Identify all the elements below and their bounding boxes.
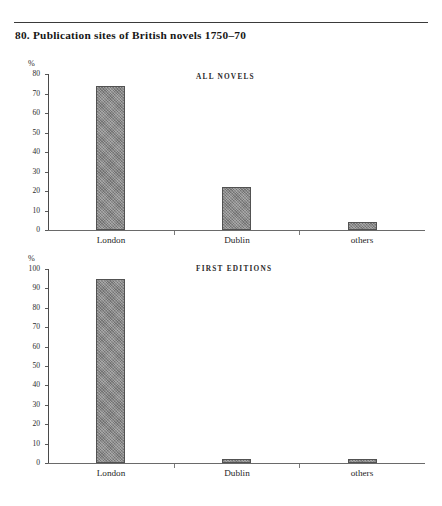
y-tick-mark bbox=[45, 347, 48, 348]
y-tick-mark bbox=[45, 113, 48, 114]
bar-others bbox=[348, 459, 377, 463]
y-tick-label: 50 bbox=[10, 129, 40, 137]
y-tick-label: 70 bbox=[10, 323, 40, 331]
y-tick-mark bbox=[45, 230, 48, 231]
y-tick-label: 20 bbox=[10, 187, 40, 195]
y-tick-label: 0 bbox=[10, 459, 40, 467]
y-tick-mark bbox=[45, 405, 48, 406]
y-tick-mark bbox=[45, 172, 48, 173]
y-tick-mark bbox=[45, 152, 48, 153]
y-tick-mark bbox=[45, 269, 48, 270]
y-tick-mark bbox=[45, 74, 48, 75]
y-tick-label: 10 bbox=[10, 440, 40, 448]
category-label-others: others bbox=[317, 235, 407, 245]
y-tick-mark bbox=[45, 288, 48, 289]
y-tick-mark bbox=[45, 327, 48, 328]
bar-dublin bbox=[222, 187, 251, 230]
y-axis-line-chart-1 bbox=[48, 269, 49, 464]
y-axis-line-chart-0 bbox=[48, 74, 49, 231]
bar-london bbox=[96, 86, 125, 230]
x-axis-line-chart-0 bbox=[48, 230, 425, 231]
x-tick-mark bbox=[174, 231, 175, 235]
x-tick-mark bbox=[299, 464, 300, 468]
y-tick-label: 90 bbox=[10, 284, 40, 292]
y-tick-mark bbox=[45, 94, 48, 95]
x-tick-mark bbox=[174, 464, 175, 468]
y-tick-mark bbox=[45, 385, 48, 386]
y-tick-label: 80 bbox=[10, 304, 40, 312]
chart-title-all-novels: ALL NOVELS bbox=[196, 72, 255, 81]
bar-london bbox=[96, 279, 125, 463]
y-tick-mark bbox=[45, 191, 48, 192]
y-tick-label: 100 bbox=[10, 265, 40, 273]
y-tick-label: 40 bbox=[10, 148, 40, 156]
figure-caption: 80. Publication sites of British novels … bbox=[15, 29, 246, 41]
y-tick-label: 30 bbox=[10, 401, 40, 409]
header-rule bbox=[14, 22, 428, 23]
category-label-london: London bbox=[66, 468, 156, 478]
y-tick-label: 50 bbox=[10, 362, 40, 370]
x-tick-mark bbox=[299, 231, 300, 235]
y-tick-mark bbox=[45, 133, 48, 134]
y-tick-mark bbox=[45, 308, 48, 309]
chart-title-first-editions: FIRST EDITIONS bbox=[196, 264, 272, 273]
y-tick-mark bbox=[45, 211, 48, 212]
category-label-dublin: Dublin bbox=[192, 468, 282, 478]
y-axis-unit-label-chart-1: % bbox=[28, 254, 35, 263]
y-tick-label: 10 bbox=[10, 207, 40, 215]
category-label-london: London bbox=[66, 235, 156, 245]
y-tick-mark bbox=[45, 444, 48, 445]
y-tick-label: 60 bbox=[10, 343, 40, 351]
bar-others bbox=[348, 222, 377, 230]
y-tick-label: 80 bbox=[10, 70, 40, 78]
y-tick-label: 30 bbox=[10, 168, 40, 176]
y-tick-label: 60 bbox=[10, 109, 40, 117]
y-tick-mark bbox=[45, 424, 48, 425]
y-tick-mark bbox=[45, 366, 48, 367]
y-tick-label: 20 bbox=[10, 420, 40, 428]
y-tick-mark bbox=[45, 463, 48, 464]
category-label-dublin: Dublin bbox=[192, 235, 282, 245]
figure-root: 80. Publication sites of British novels … bbox=[0, 0, 442, 506]
y-tick-label: 70 bbox=[10, 90, 40, 98]
y-tick-label: 40 bbox=[10, 381, 40, 389]
y-tick-label: 0 bbox=[10, 226, 40, 234]
bar-dublin bbox=[222, 459, 251, 463]
category-label-others: others bbox=[317, 468, 407, 478]
x-axis-line-chart-1 bbox=[48, 463, 425, 464]
y-axis-unit-label-chart-0: % bbox=[28, 59, 35, 68]
